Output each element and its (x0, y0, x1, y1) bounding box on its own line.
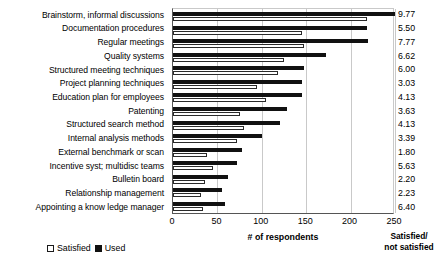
legend-label: Satisfied (57, 243, 91, 253)
ratio-value: 9.77 (398, 8, 438, 22)
bar-group (173, 105, 393, 119)
x-tick-label: 50 (211, 216, 221, 226)
gridline (395, 9, 396, 213)
ratio-value: 4.13 (398, 118, 438, 132)
bar-group (173, 186, 393, 200)
bar-group (173, 10, 393, 24)
bar-used (173, 93, 302, 97)
bar-used (173, 175, 228, 179)
x-tick-label: 150 (298, 216, 313, 226)
bar-group (173, 132, 393, 146)
bar-used (173, 161, 237, 165)
open-square-icon (47, 245, 54, 252)
bar-used (173, 107, 287, 111)
category-label: Incentive syst; multidisc teams (0, 159, 168, 173)
bar-series-container (173, 9, 393, 213)
category-label: Structured meeting techniques (0, 63, 168, 77)
bar-satisfied (173, 153, 207, 157)
bar-group (173, 172, 393, 186)
ratio-value: 2.23 (398, 187, 438, 201)
ratio-value: 2.20 (398, 173, 438, 187)
ratio-value: 1.80 (398, 145, 438, 159)
bar-group (173, 159, 393, 173)
ratio-value: 5.63 (398, 159, 438, 173)
ratio-value-column: 9.77 5.50 7.77 6.62 6.00 3.03 4.13 3.63 … (398, 8, 438, 214)
ratio-header-line2: not satisfied (384, 242, 433, 252)
bar-used (173, 80, 302, 84)
bar-satisfied (173, 180, 205, 184)
x-tick-label: 100 (253, 216, 268, 226)
category-label: Relationship management (0, 187, 168, 201)
bar-satisfied (173, 98, 266, 102)
bar-group (173, 91, 393, 105)
bar-satisfied (173, 17, 367, 21)
x-tick-label: 250 (386, 216, 401, 226)
category-label: External benchmark or scan (0, 145, 168, 159)
category-label: Education plan for employees (0, 90, 168, 104)
bar-satisfied (173, 58, 284, 62)
bar-satisfied (173, 44, 304, 48)
ratio-value: 7.77 (398, 35, 438, 49)
legend-item-used: Used (95, 243, 126, 253)
x-tick-label: 0 (169, 216, 174, 226)
bar-used (173, 202, 225, 206)
bar-satisfied (173, 207, 203, 211)
category-label: Bulletin board (0, 173, 168, 187)
bar-used (173, 39, 368, 43)
bar-group (173, 37, 393, 51)
bar-group (173, 118, 393, 132)
bar-used (173, 66, 304, 70)
bar-satisfied (173, 166, 213, 170)
bar-group (173, 199, 393, 213)
category-label: Internal analysis methods (0, 132, 168, 146)
bar-used (173, 12, 395, 16)
bar-satisfied (173, 112, 240, 116)
x-axis-title: # of respondents (172, 232, 394, 242)
x-tick-label: 200 (342, 216, 357, 226)
ratio-value: 6.00 (398, 63, 438, 77)
category-label: Patenting (0, 104, 168, 118)
ratio-value: 6.62 (398, 49, 438, 63)
bar-group (173, 78, 393, 92)
bar-used (173, 134, 262, 138)
bar-used (173, 188, 222, 192)
chart-legend: Satisfied Used (47, 243, 125, 253)
bar-used (173, 26, 367, 30)
category-label: Regular meetings (0, 35, 168, 49)
category-label: Brainstorm, informal discussions (0, 8, 168, 22)
x-axis-ticks: 050100150200250 (172, 216, 396, 230)
bar-satisfied (173, 31, 302, 35)
bar-satisfied (173, 85, 257, 89)
ratio-header-line1: Satisfied/ (390, 231, 427, 241)
ratio-value: 6.40 (398, 200, 438, 214)
ratio-value: 5.50 (398, 22, 438, 36)
bar-group (173, 64, 393, 78)
ratio-column-header: Satisfied/ not satisfied (380, 231, 438, 252)
category-label: Documentation procedures (0, 22, 168, 36)
category-label: Quality systems (0, 49, 168, 63)
ratio-value: 3.03 (398, 77, 438, 91)
bar-satisfied (173, 71, 278, 75)
bar-satisfied (173, 139, 237, 143)
bar-used (173, 53, 326, 57)
bar-used (173, 121, 280, 125)
plot-area (172, 8, 394, 214)
bar-group (173, 24, 393, 38)
bar-group (173, 145, 393, 159)
category-axis-labels: Brainstorm, informal discussions Documen… (0, 8, 168, 214)
ratio-value: 4.13 (398, 90, 438, 104)
ratio-value: 3.39 (398, 132, 438, 146)
category-label: Project planning techniques (0, 77, 168, 91)
ratio-value: 3.63 (398, 104, 438, 118)
legend-item-satisfied: Satisfied (47, 243, 91, 253)
bar-group (173, 51, 393, 65)
category-label: Structured search method (0, 118, 168, 132)
category-label: Appointing a know ledge manager (0, 200, 168, 214)
bar-used (173, 148, 242, 152)
bar-satisfied (173, 126, 244, 130)
legend-label: Used (105, 243, 126, 253)
filled-square-icon (95, 245, 102, 252)
bar-chart: Brainstorm, informal discussions Documen… (0, 0, 438, 273)
bar-satisfied (173, 193, 201, 197)
